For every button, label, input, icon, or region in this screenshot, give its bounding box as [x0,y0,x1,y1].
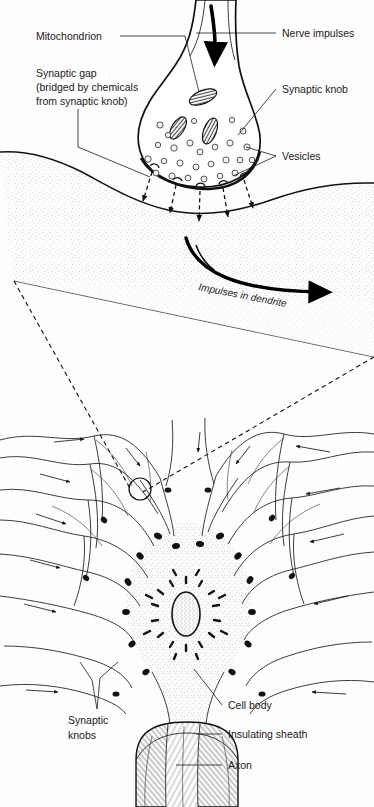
diagram-canvas: Mitochondrion Synaptic gap (bridged by c… [0,0,374,807]
label-synaptic-knobs-line2: knobs [68,729,96,741]
label-synaptic-knobs-line1: Synaptic [68,714,108,726]
label-insulating-sheath: Insulating sheath [228,728,308,740]
label-nerve-impulses: Nerve impulses [282,27,354,39]
label-axon: Axon [228,759,252,771]
label-mitochondrion: Mitochondrion [36,30,102,42]
label-synaptic-gap-line3: from synaptic knob) [36,95,128,107]
label-synaptic-gap-line2: (bridged by chemicals [36,81,138,93]
label-vesicles: Vesicles [282,150,321,162]
label-cell-body: Cell body [228,699,273,711]
nucleus [172,592,200,636]
neuron-synapse-diagram: Mitochondrion Synaptic gap (bridged by c… [0,0,374,807]
axon-group [136,722,238,807]
label-synaptic-gap-line1: Synaptic gap [36,67,97,79]
label-synaptic-knob: Synaptic knob [282,83,348,95]
